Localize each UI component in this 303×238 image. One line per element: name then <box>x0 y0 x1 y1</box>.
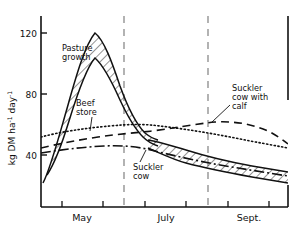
annotation-suckler-cow-line2: cow <box>133 171 150 181</box>
y-title-dm: DM <box>7 137 17 152</box>
x-tick-label-may: May <box>72 212 92 223</box>
chart-background <box>0 0 303 238</box>
x-tick-label-july: July <box>156 212 174 223</box>
y-title-day: day <box>7 96 17 113</box>
svg-text:kg DM ha-1 day-1: kg DM ha-1 day-1 <box>6 91 18 165</box>
y-tick-label-40: 40 <box>26 151 38 161</box>
y-tick-label-80: 80 <box>26 90 38 100</box>
y-axis-title: kg DM ha-1 day-1 <box>6 91 18 165</box>
annotation-pasture-growth: Pasture growth <box>62 43 92 62</box>
annotation-pasture-growth-line2: growth <box>62 52 91 62</box>
x-tick-label-sept: Sept. <box>237 212 262 223</box>
pasture-growth-chart: 120 80 40 kg DM ha-1 day-1 May July Sept… <box>0 0 303 238</box>
y-title-day-exp: -1 <box>6 91 13 97</box>
y-title-kg: kg <box>7 154 17 165</box>
y-title-ha: ha <box>7 123 17 134</box>
y-tick-label-120: 120 <box>20 29 37 39</box>
annotation-beef-store-line2: store <box>76 107 97 117</box>
chart-figure: 120 80 40 kg DM ha-1 day-1 May July Sept… <box>0 0 303 238</box>
annotation-suckler-calf-line3: calf <box>232 101 248 111</box>
